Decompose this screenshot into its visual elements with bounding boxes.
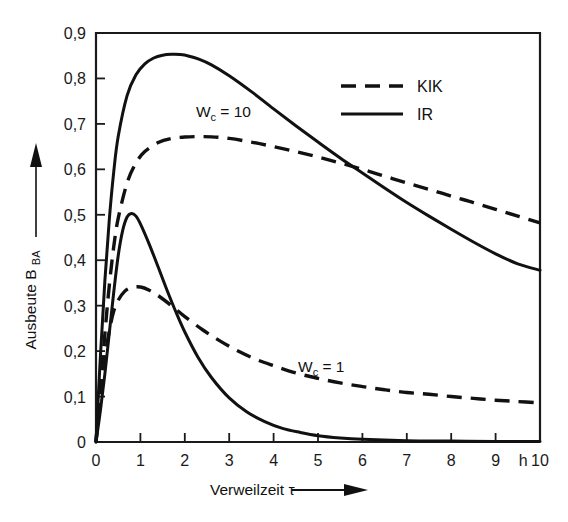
plot-border bbox=[96, 33, 540, 442]
x-axis-arrow-head bbox=[344, 484, 368, 496]
y-tick-label: 0,3 bbox=[64, 298, 86, 315]
y-tick-label: 0,9 bbox=[64, 25, 86, 42]
x-axis-title: Verweilzeit τ bbox=[210, 481, 295, 498]
x-tick-label: 9 bbox=[491, 452, 500, 469]
plot-frame bbox=[96, 33, 540, 442]
x-tick-label: 0 bbox=[92, 452, 101, 469]
y-tick-label: 0,7 bbox=[64, 116, 86, 133]
y-tick-label: 0 bbox=[77, 434, 86, 451]
y-tick-label: 0,2 bbox=[64, 343, 86, 360]
y-tick-label: 0,6 bbox=[64, 161, 86, 178]
data-curve-solid bbox=[96, 54, 540, 442]
x-axis-unit-label: h bbox=[519, 452, 528, 469]
legend-label: KIK bbox=[417, 78, 443, 95]
x-tick-label: 6 bbox=[358, 452, 367, 469]
chart-legend: KIKIR bbox=[341, 78, 443, 123]
x-tick-label: 1 bbox=[136, 452, 145, 469]
data-curves bbox=[96, 54, 540, 442]
x-axis-ticks: 012345678910h bbox=[92, 433, 549, 469]
x-tick-label: 4 bbox=[269, 452, 278, 469]
y-axis-arrow-head bbox=[30, 143, 42, 167]
axis-titles: Ausbeute B BAVerweilzeit τ bbox=[22, 143, 368, 498]
x-tick-label: 2 bbox=[180, 452, 189, 469]
curve-annotation: Wc = 1 bbox=[298, 358, 344, 378]
x-tick-label: 5 bbox=[314, 452, 323, 469]
y-tick-label: 0,8 bbox=[64, 70, 86, 87]
x-tick-label: 8 bbox=[447, 452, 456, 469]
x-tick-label: 7 bbox=[402, 452, 411, 469]
data-curve-dashed bbox=[96, 137, 540, 442]
legend-label: IR bbox=[417, 106, 433, 123]
y-axis-title: Ausbeute B BA bbox=[22, 250, 42, 350]
data-curve-solid bbox=[96, 213, 540, 442]
y-tick-label: 0,5 bbox=[64, 207, 86, 224]
y-tick-label: 0,4 bbox=[64, 252, 86, 269]
curve-annotation: Wc = 10 bbox=[196, 103, 251, 123]
yield-vs-residence-time-chart: 012345678910h 00,10,20,30,40,50,60,70,80… bbox=[0, 0, 568, 522]
y-tick-label: 0,1 bbox=[64, 389, 86, 406]
x-tick-label: 3 bbox=[225, 452, 234, 469]
annotation-text: Wc = 10 bbox=[196, 103, 251, 123]
chart-figure: 012345678910h 00,10,20,30,40,50,60,70,80… bbox=[0, 0, 568, 522]
annotation-text: Wc = 1 bbox=[298, 358, 344, 378]
x-tick-label: 10 bbox=[531, 452, 549, 469]
